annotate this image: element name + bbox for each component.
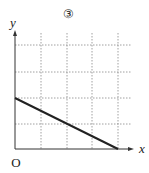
- y-axis-arrow-icon: [13, 30, 17, 36]
- grid: [15, 33, 131, 149]
- data-line: [15, 98, 118, 149]
- x-axis-arrow-icon: [128, 147, 134, 151]
- y-axis-label: y: [8, 15, 16, 30]
- x-axis-label: x: [138, 141, 145, 156]
- figure-label: ③: [63, 7, 74, 21]
- origin-label: O: [11, 155, 20, 170]
- axes: [13, 30, 134, 151]
- chart: ③ y x O: [0, 0, 149, 173]
